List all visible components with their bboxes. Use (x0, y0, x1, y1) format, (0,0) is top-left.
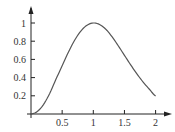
y-tick-label: 0.8 (14, 36, 27, 47)
y-tick-label: 0.2 (14, 90, 27, 101)
x-tick-label: 0.5 (56, 117, 69, 128)
y-tick-label: 1 (21, 18, 26, 29)
x-tick-label: 2 (153, 117, 158, 128)
y-tick-label: 0.4 (14, 72, 27, 83)
y-axis-arrow-icon (29, 6, 34, 14)
axes (27, 6, 172, 118)
x-tick-label: 1.5 (118, 117, 131, 128)
x-tick-label: 1 (91, 117, 96, 128)
x-axis-arrow-icon (164, 112, 172, 117)
chart: 0.511.520.20.40.60.81 (0, 0, 175, 132)
data-curve (31, 23, 156, 114)
y-tick-label: 0.6 (14, 54, 27, 65)
